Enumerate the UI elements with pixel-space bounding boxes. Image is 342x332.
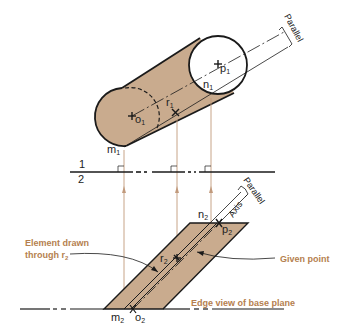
reference-label-upper: 1 [79, 158, 85, 170]
projection-arrows [122, 186, 213, 193]
annotation-edge-view: Edge view of base plane [191, 298, 295, 308]
label-parallel-front: Parallel [241, 175, 266, 205]
diagram-canvas: o1 p1 n1 r1 m1 Parallel 1 2 [0, 0, 342, 332]
label-parallel-top: Parallel [282, 12, 305, 43]
right-angle-marks [118, 166, 211, 172]
label-n2: n2 [198, 208, 208, 221]
annotation-element-line2: through r2 [25, 250, 69, 261]
front-view-cylinder [104, 186, 248, 313]
label-axis-front: Axis [226, 199, 244, 219]
annotation-given-point: Given point [280, 254, 330, 264]
reference-label-lower: 2 [78, 173, 84, 185]
label-m2: m2 [111, 311, 124, 324]
label-o2: o2 [135, 311, 145, 324]
top-view-cylinder [95, 27, 292, 147]
annotation-element-line1: Element drawn [25, 238, 89, 248]
